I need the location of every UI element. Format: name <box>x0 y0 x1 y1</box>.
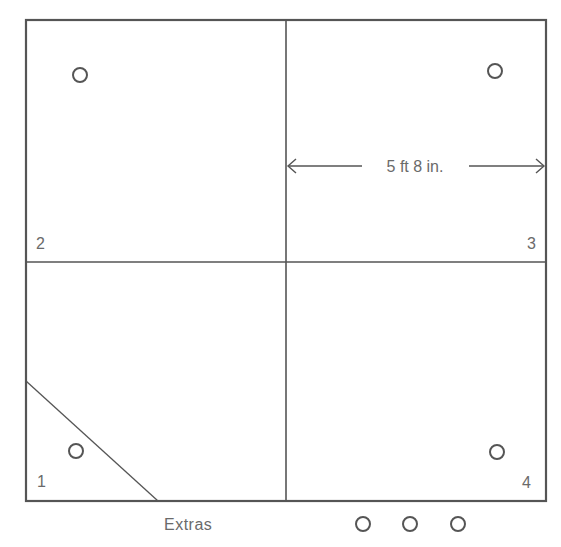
quadrant-label-1: 1 <box>37 473 46 490</box>
extra-marker-circle-3 <box>451 517 465 531</box>
dimension-label: 5 ft 8 in. <box>387 158 444 175</box>
dimension-arrow: 5 ft 8 in. <box>288 158 544 175</box>
marker-circle-quadrant-2 <box>73 68 87 82</box>
quadrant-label-2: 2 <box>36 235 45 252</box>
extra-marker-circle-2 <box>403 517 417 531</box>
quadrant-label-3: 3 <box>527 235 536 252</box>
extra-marker-circle-1 <box>356 517 370 531</box>
marker-circle-quadrant-3 <box>488 64 502 78</box>
marker-circle-quadrant-4 <box>490 445 504 459</box>
quilt-layout-diagram: 5 ft 8 in. 2 3 1 4 Extras <box>0 0 561 547</box>
marker-circle-quadrant-1 <box>69 444 83 458</box>
quadrant-label-4: 4 <box>522 474 531 491</box>
extras-label: Extras <box>164 516 212 533</box>
